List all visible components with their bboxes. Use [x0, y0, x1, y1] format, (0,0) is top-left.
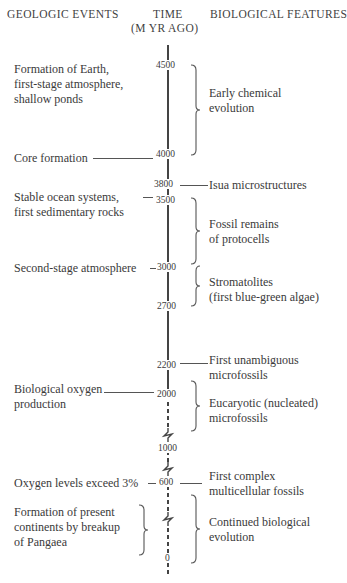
- tick-0: 0: [164, 553, 171, 563]
- connector-second-stage: [150, 268, 156, 269]
- feature-stromatolites: Stromatolites (first blue-green algae): [209, 275, 319, 305]
- biological-features-header: BIOLOGICAL FEATURES: [210, 8, 347, 20]
- tick-3000: 3000: [156, 262, 177, 272]
- tick-3500: 3500: [155, 195, 176, 205]
- tick-2200: 2200: [156, 360, 177, 370]
- event-second-stage-atmosphere: Second-stage atmosphere: [14, 261, 136, 276]
- brace-stromatolites: [190, 265, 202, 307]
- brace-early-chemical: [190, 64, 202, 156]
- tick-600: 600: [158, 477, 174, 487]
- event-stable-oceans: Stable ocean systems, first sedimentary …: [14, 190, 124, 220]
- connector-isua: [180, 185, 208, 186]
- feature-fossil-protocells: Fossil remains of protocells: [209, 217, 279, 247]
- connector-stable-oceans: [143, 197, 153, 198]
- event-biological-oxygen: Biological oxygen production: [14, 382, 102, 412]
- feature-first-unambiguous-microfossils: First unambiguous microfossils: [209, 353, 299, 383]
- axis-break-icon: [160, 512, 176, 526]
- time-units-header: (M YR AGO): [131, 22, 198, 34]
- event-pangaea-breakup: Formation of present continents by break…: [14, 505, 120, 550]
- feature-eucaryotic-microfossils: Eucaryotic (nucleated) microfossils: [209, 396, 318, 426]
- event-oxygen-levels: Oxygen levels exceed 3%: [14, 476, 138, 491]
- brace-protocells: [190, 197, 202, 265]
- feature-continued-biological-evolution: Continued biological evolution: [209, 515, 310, 545]
- time-header: TIME: [153, 8, 183, 20]
- tick-2000: 2000: [156, 389, 177, 399]
- connector-first-unambiguous: [180, 363, 208, 364]
- time-axis-solid: [167, 45, 169, 395]
- event-formation-of-earth: Formation of Earth, first-stage atmosphe…: [14, 62, 123, 107]
- tick-2700: 2700: [156, 301, 177, 311]
- brace-eucaryotic: [190, 380, 202, 432]
- tick-3800: 3800: [153, 179, 174, 189]
- connector-oxygen-levels: [148, 483, 156, 484]
- feature-first-complex-multicellular: First complex multicellular fossils: [209, 469, 304, 499]
- connector-core-formation: [93, 158, 153, 159]
- connector-first-complex: [180, 483, 202, 484]
- tick-4500: 4500: [155, 60, 176, 70]
- axis-break-icon: [160, 428, 176, 442]
- axis-break-icon: [160, 462, 176, 476]
- brace-pangaea: [138, 504, 150, 556]
- geologic-events-header: GEOLOGIC EVENTS: [7, 8, 119, 20]
- tick-4000: 4000: [155, 149, 176, 159]
- connector-biological-oxygen: [104, 392, 154, 393]
- tick-1000: 1000: [157, 443, 178, 453]
- feature-early-chemical-evolution: Early chemical evolution: [209, 86, 281, 116]
- feature-isua-microstructures: Isua microstructures: [209, 178, 307, 193]
- event-core-formation: Core formation: [14, 151, 88, 166]
- brace-continued-evolution: [190, 494, 202, 564]
